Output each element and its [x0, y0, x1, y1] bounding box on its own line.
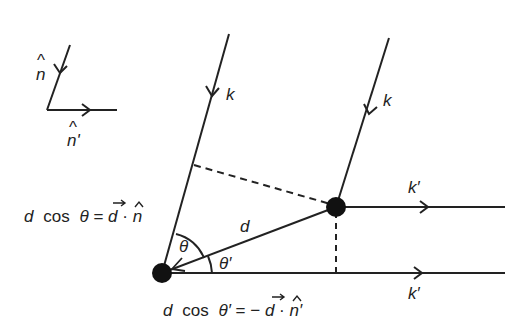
- vector-arrow-icon: [272, 294, 284, 300]
- theta-label: θ: [179, 237, 189, 256]
- svg-text:d cos θ =: d cos θ = d · n: [24, 207, 142, 226]
- equation-d-cos-theta-prime: d cos θ′ = − d · n′: [163, 294, 303, 320]
- projection-onto-k: [194, 165, 334, 205]
- scattered-rays: k′ k′: [162, 178, 505, 303]
- k-left-label: k: [226, 85, 236, 104]
- equation-d-cos-theta: d cos θ = d · n: [24, 200, 143, 226]
- scatterer-displaced-icon: [326, 197, 346, 217]
- svg-text:d cos θ′ =: d cos θ′ = − d · n′: [163, 301, 303, 320]
- theta-prime-label: θ′: [219, 254, 232, 273]
- scatterer-origin-icon: [152, 263, 172, 283]
- scattering-diagram: n ^ n' ^ k k k′ k′ d θ θ′: [0, 0, 522, 336]
- n-hat-arrow-icon: [54, 64, 67, 73]
- k-right-label: k: [383, 91, 393, 110]
- n-hat-axis-line: [47, 45, 70, 110]
- unit-vector-legend: n ^ n' ^: [36, 45, 117, 150]
- incident-rays: k k: [162, 34, 393, 273]
- k-prime-bottom-label: k′: [408, 284, 421, 303]
- k-prime-top-label: k′: [408, 178, 421, 197]
- angle-markers: θ θ′: [176, 234, 232, 273]
- d-label: d: [240, 217, 250, 236]
- theta-prime-arc: [208, 256, 212, 273]
- vector-arrow-icon: [113, 200, 125, 206]
- incident-ray-left: [162, 34, 229, 273]
- projection-lines: [194, 165, 336, 273]
- n-prime-hat-caret: ^: [69, 118, 77, 137]
- incident-ray-right: [336, 38, 389, 207]
- n-hat-caret: ^: [37, 51, 45, 70]
